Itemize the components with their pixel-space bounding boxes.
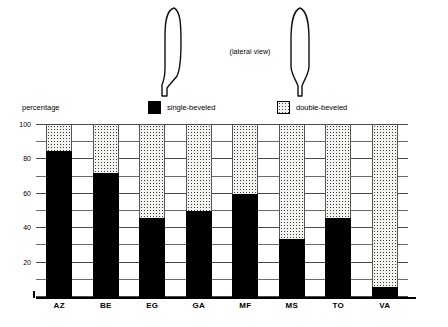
bar-segment-single-beveled: [325, 218, 351, 297]
bar-stack-va: [372, 125, 398, 297]
bar-segment-double-beveled: [139, 125, 165, 218]
x-axis-tick-label-eg: EG: [139, 301, 165, 310]
bar-segment-double-beveled: [325, 125, 351, 218]
x-axis-tick-label-mf: MF: [232, 301, 258, 310]
y-axis-tick-label: 20: [23, 258, 31, 265]
x-axis-tick-label-az: AZ: [46, 301, 72, 310]
bar-stack-be: [93, 125, 119, 297]
y-axis-tick-label: 60: [23, 189, 31, 196]
x-axis-tick-label-to: TO: [325, 301, 351, 310]
y-axis-tick-label: 100: [19, 121, 31, 128]
bar-segment-double-beveled: [46, 125, 72, 151]
x-axis-tick-label-ms: MS: [279, 301, 305, 310]
y-axis-tick-label: 40: [23, 224, 31, 231]
x-axis-tick-label-be: BE: [93, 301, 119, 310]
y-axis-origin-tick: [33, 291, 35, 298]
bar-chart-figure: (lateral view) single-beveled double-bev…: [0, 0, 448, 327]
bar-segment-single-beveled: [93, 173, 119, 297]
bar-stack-az: [46, 125, 72, 297]
bar-segment-single-beveled: [232, 194, 258, 297]
bar-segment-double-beveled: [372, 125, 398, 287]
bar-stack-eg: [139, 125, 165, 297]
bar-segment-double-beveled: [93, 125, 119, 173]
bar-stack-to: [325, 125, 351, 297]
bar-stack-mf: [232, 125, 258, 297]
plot-area: 20406080100 AZBEEGGAMFMSTOVA: [36, 125, 408, 297]
bar-segment-single-beveled: [279, 239, 305, 297]
bar-stack-ga: [186, 125, 212, 297]
bar-segment-double-beveled: [279, 125, 305, 239]
x-axis-line: [36, 297, 416, 299]
y-axis-tick-label: 80: [23, 155, 31, 162]
x-axis-tick-label-ga: GA: [186, 301, 212, 310]
bar-segment-double-beveled: [186, 125, 212, 211]
bar-segment-single-beveled: [186, 211, 212, 297]
bar-segment-single-beveled: [372, 287, 398, 297]
bar-segment-single-beveled: [46, 151, 72, 297]
bar-segment-single-beveled: [139, 218, 165, 297]
bar-stack-ms: [279, 125, 305, 297]
x-axis-tick-label-va: VA: [372, 301, 398, 310]
plot-area-wrapper: 20406080100 AZBEEGGAMFMSTOVA: [0, 0, 448, 327]
bar-group: [36, 125, 408, 297]
bar-segment-double-beveled: [232, 125, 258, 194]
